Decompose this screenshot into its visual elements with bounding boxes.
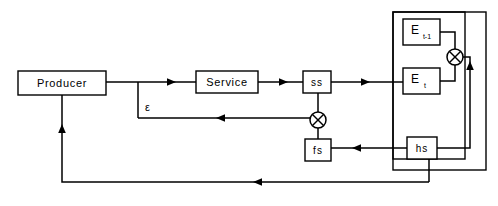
node-e-curr[interactable]: E t [403, 68, 440, 94]
mult-lower-operator [310, 112, 326, 128]
edge-service-to-ss [258, 78, 303, 86]
edge-hs-to-fs [331, 144, 407, 152]
edge-e-prev-to-mult-upper [440, 32, 455, 49]
node-hs[interactable]: hs [407, 137, 437, 159]
node-e-curr-subscript: t [424, 82, 426, 89]
node-producer-label: Producer [37, 77, 87, 89]
node-fs-label: fs [313, 145, 323, 156]
node-fs[interactable]: fs [305, 139, 331, 161]
node-e-prev[interactable]: E t-1 [403, 19, 440, 45]
mult-upper-operator [447, 49, 463, 65]
node-service[interactable]: Service [196, 71, 258, 93]
node-e-prev-label: E [411, 23, 419, 37]
node-e-curr-label: E [411, 72, 419, 86]
edge-producer-to-service [106, 78, 196, 86]
edge-e-curr-to-mult-upper [440, 65, 455, 81]
epsilon-label: ε [145, 101, 150, 113]
edge-outer-feedback-to-producer [58, 95, 429, 186]
edge-ss-to-e-curr [331, 78, 403, 86]
node-e-prev-subscript: t-1 [423, 33, 431, 40]
block-diagram-canvas: Producer Service ss fs hs E t-1 E t [0, 0, 498, 206]
node-ss[interactable]: ss [303, 71, 331, 93]
node-producer[interactable]: Producer [18, 71, 106, 95]
node-hs-label: hs [416, 143, 429, 154]
edge-epsilon-horizontal [138, 114, 310, 122]
node-service-label: Service [206, 76, 248, 88]
block-diagram-svg: Producer Service ss fs hs E t-1 E t [0, 0, 498, 206]
node-ss-label: ss [311, 77, 323, 88]
